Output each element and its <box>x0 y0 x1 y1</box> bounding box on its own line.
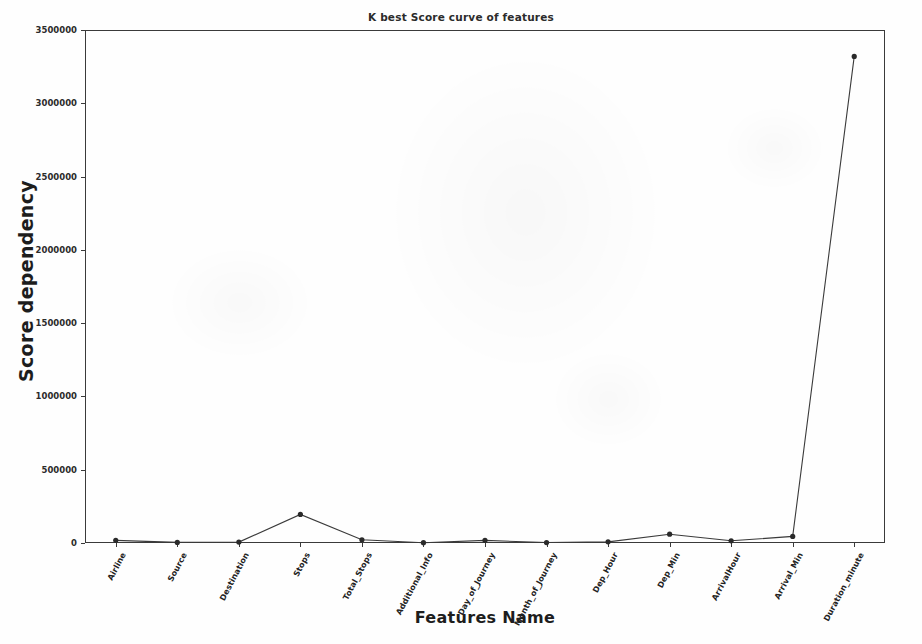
y-axis-tick-label: 1500000 <box>7 318 77 328</box>
x-axis-tick-mark <box>670 543 671 547</box>
y-axis-tick-label: 1000000 <box>7 391 77 401</box>
y-axis-tick-label: 3500000 <box>7 25 77 35</box>
series-line <box>116 56 854 542</box>
x-axis-tick-label: Source <box>166 551 189 583</box>
y-axis-tick-label: 2000000 <box>7 245 77 255</box>
data-point-marker <box>359 537 364 542</box>
y-axis-label: Score dependency <box>15 71 37 491</box>
x-axis-tick-label: Arrival_Min <box>772 551 804 601</box>
data-point-marker <box>236 540 241 545</box>
chart-figure: K best Score curve of features Score dep… <box>0 0 922 644</box>
x-axis-tick-mark <box>116 543 117 547</box>
x-axis-tick-label: Destination <box>218 551 251 602</box>
x-axis-label: Features Name <box>85 608 885 627</box>
data-point-marker <box>482 538 487 543</box>
x-axis-tick-mark <box>793 543 794 547</box>
x-axis-tick-label: Dep_Min <box>655 551 681 590</box>
x-axis-tick-label: ArrivalHour <box>710 551 743 602</box>
x-axis-tick-mark <box>854 543 855 547</box>
data-point-marker <box>729 538 734 543</box>
x-axis-tick-label: Additional_Info <box>395 551 436 617</box>
data-series <box>85 30 885 543</box>
data-point-marker <box>544 540 549 545</box>
x-axis-tick-label: Airline <box>106 551 128 582</box>
x-axis-tick-mark <box>731 543 732 547</box>
data-point-marker <box>421 540 426 545</box>
y-axis-tick-mark <box>81 543 85 544</box>
data-point-marker <box>790 534 795 539</box>
x-axis-tick-label: Dep_Hour <box>591 551 620 594</box>
data-point-marker <box>113 538 118 543</box>
y-axis-tick-label: 3000000 <box>7 98 77 108</box>
data-point-marker <box>852 54 857 59</box>
data-point-marker <box>605 539 610 544</box>
x-axis-tick-label: Stops <box>292 551 312 578</box>
y-axis-tick-label: 500000 <box>7 465 77 475</box>
x-axis-tick-label: Total_Stops <box>341 551 374 602</box>
data-point-marker <box>298 512 303 517</box>
x-axis-tick-mark <box>300 543 301 547</box>
data-point-marker <box>175 540 180 545</box>
chart-title: K best Score curve of features <box>0 11 922 23</box>
data-point-marker <box>667 532 672 537</box>
y-axis-tick-label: 2500000 <box>7 172 77 182</box>
x-axis-tick-mark <box>485 543 486 547</box>
x-axis-tick-mark <box>362 543 363 547</box>
x-axis-tick-label: Day_of_Journey <box>456 551 497 617</box>
y-axis-tick-label: 0 <box>7 538 77 548</box>
